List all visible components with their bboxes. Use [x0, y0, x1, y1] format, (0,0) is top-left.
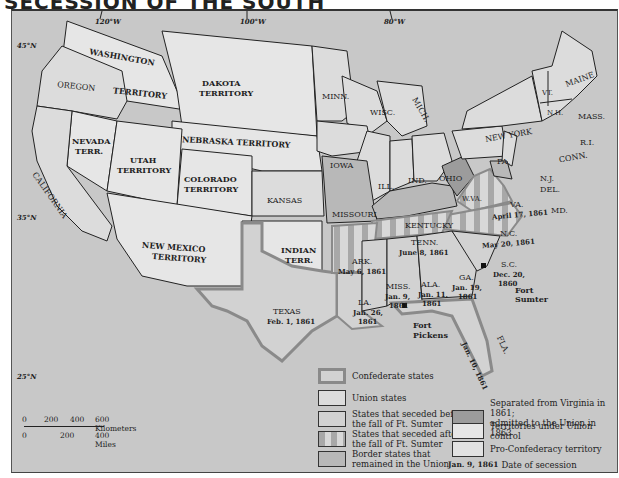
label-fort-pickens: Fort	[413, 321, 432, 329]
label-fort-sumter-2: Sumter	[515, 295, 548, 303]
label-fort-sumter: Fort	[515, 286, 534, 294]
swatch-union-territories	[452, 423, 484, 439]
label-nevada-terr: TERR.	[75, 147, 103, 155]
legend-seceded-before: States that seceded beforethe fall of Ft…	[318, 409, 468, 429]
label-ga-date-2: 1861	[458, 293, 477, 300]
label-indian: INDIAN	[281, 246, 316, 254]
longitude-120: 120°W	[95, 17, 121, 26]
label-wva: W.VA.	[462, 196, 482, 203]
label-utah-territory: TERRITORY	[117, 166, 171, 174]
legend-label: Pro-Confederacy territory	[490, 444, 602, 454]
label-texas-date: Feb. 1, 1861	[267, 318, 315, 325]
label-kansas: KANSAS	[267, 197, 302, 205]
label-ga-date-1: Jan. 19,	[452, 284, 482, 291]
scale-km-200: 200	[44, 415, 58, 424]
label-nc: N.C.	[500, 230, 517, 238]
latitude-35: 35°N	[17, 213, 37, 222]
label-tenn-date: June 8, 1861	[399, 249, 449, 256]
longitude-100: 100°W	[240, 17, 266, 26]
label-md: MD.	[551, 207, 568, 215]
scale-km-0: 0	[22, 415, 27, 424]
swatch-pro-confederacy	[452, 441, 484, 457]
label-indian-terr: TERR.	[285, 256, 313, 264]
label-ala-date-2: 1861	[422, 300, 441, 307]
swatch-seceded-before	[318, 411, 346, 427]
label-la-date-1: Jan. 26,	[353, 309, 383, 316]
swatch-union	[318, 390, 346, 406]
label-fort-pickens-2: Pickens	[413, 331, 448, 339]
label-del: DEL.	[540, 186, 560, 194]
legend-date: Jan. 9, 1861 Date of secession	[448, 460, 577, 470]
label-iowa: IOWA	[330, 162, 353, 170]
legend-date-example: Jan. 9, 1861	[448, 460, 498, 470]
scale-bar: 0 200 400 600 Kilometers 0 200 400 Miles	[22, 415, 132, 443]
label-ark-date: May 6, 1861	[338, 268, 386, 275]
label-wisc: WISC.	[370, 109, 395, 117]
legend-label: Confederate states	[352, 371, 434, 381]
legend-label: States that seceded afterthe fall of Ft.…	[352, 429, 460, 449]
legend-date-label: Date of secession	[501, 460, 576, 470]
map-frame: 120°W 100°W 80°W 45°N 35°N 25°N WASHINGT…	[11, 9, 618, 473]
label-ind: IND.	[408, 177, 427, 185]
swatch-border-states	[318, 451, 346, 467]
label-ri: R.I.	[580, 139, 594, 147]
label-va: VA.	[510, 201, 524, 209]
legend-pro-confederacy: Pro-Confederacy territory	[452, 441, 602, 457]
label-la: LA.	[358, 299, 372, 307]
label-nevada: NEVADA	[72, 137, 110, 145]
label-nj: N.J.	[540, 175, 554, 183]
label-dakota: DAKOTA	[202, 79, 241, 87]
label-ark: ARK.	[352, 258, 372, 266]
label-miss-date-2: 1861	[389, 302, 408, 309]
label-ohio: OHIO	[439, 175, 462, 183]
label-dakota-territory: TERRITORY	[199, 89, 253, 97]
label-ala: ALA.	[421, 281, 440, 289]
label-ala-date-1: Jan. 11,	[418, 291, 448, 298]
label-ill: ILL.	[378, 183, 394, 191]
scale-mi-0: 0	[22, 431, 27, 440]
swatch-confederate	[318, 368, 346, 384]
label-ga: GA.	[459, 274, 474, 282]
label-utah: UTAH	[130, 156, 156, 164]
legend-border-states: Border states thatremained in the Union	[318, 449, 449, 469]
longitude-80: 80°W	[384, 17, 405, 26]
legend-confederate: Confederate states	[318, 368, 434, 384]
legend-label: Border states thatremained in the Union	[352, 449, 449, 469]
label-sc-date-1: Dec. 20,	[493, 271, 525, 278]
label-vt: VT.	[542, 90, 553, 97]
legend-union-territories: Territories under Union control	[452, 421, 617, 441]
label-miss-date-1: Jan. 9,	[385, 293, 410, 300]
label-pa: PA.	[497, 158, 510, 166]
label-nh: N.H.	[547, 110, 563, 117]
label-mass: MASS.	[578, 113, 605, 121]
legend-label: States that seceded beforethe fall of Ft…	[352, 409, 468, 429]
label-la-date-2: 1861	[358, 318, 377, 325]
swatch-seceded-after	[318, 431, 346, 447]
scale-line	[24, 426, 104, 427]
label-texas: TEXAS	[273, 308, 301, 316]
legend-label: Territories under Union control	[490, 421, 617, 441]
latitude-45: 45°N	[17, 41, 37, 50]
scale-mi-200: 200	[60, 431, 74, 440]
legend-seceded-after: States that seceded afterthe fall of Ft.…	[318, 429, 460, 449]
label-tenn: TENN.	[411, 239, 438, 247]
label-miss: MISS.	[386, 283, 410, 291]
legend-union: Union states	[318, 390, 406, 406]
scale-mi-400: 400 Miles	[95, 431, 132, 449]
label-minn: MINN.	[322, 93, 349, 101]
label-missouri: MISSOURI	[332, 211, 377, 219]
label-sc: S.C.	[501, 261, 517, 269]
latitude-25: 25°N	[17, 372, 37, 381]
legend-label: Union states	[352, 393, 406, 403]
label-colorado: COLORADO	[184, 175, 237, 183]
label-kentucky: KENTUCKY	[405, 222, 453, 230]
label-colorado-territory: TERRITORY	[184, 185, 238, 193]
scale-km-400: 400	[70, 415, 84, 424]
